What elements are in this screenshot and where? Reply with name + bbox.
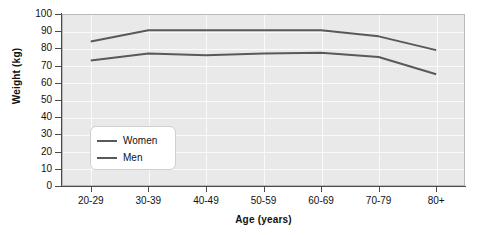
legend-item-men: Men (97, 149, 169, 166)
y-tick-label: 20 (8, 147, 52, 157)
legend-item-women: Women (97, 132, 169, 149)
x-tick-label: 40-49 (176, 195, 236, 206)
x-tick-label: 80+ (406, 195, 466, 206)
y-tick-label: 30 (8, 129, 52, 139)
x-tick-label: 60-69 (291, 195, 351, 206)
legend-swatch-women (97, 140, 117, 142)
y-tick-label: 90 (8, 26, 52, 36)
series-line-men (91, 53, 436, 74)
y-tick-label: 10 (8, 164, 52, 174)
legend-swatch-men (97, 157, 117, 159)
x-tick-label: 30-39 (118, 195, 178, 206)
x-tick-label: 20-29 (61, 195, 121, 206)
legend-label-women: Women (123, 136, 157, 146)
legend: Women Men (90, 126, 176, 170)
x-tick-label: 70-79 (349, 195, 409, 206)
line-chart-figure: Weight (kg) 0102030405060708090100 20-29… (0, 0, 481, 235)
y-tick-label: 60 (8, 78, 52, 88)
y-axis-tick-labels: 0102030405060708090100 (0, 0, 52, 200)
y-tick-label: 70 (8, 61, 52, 71)
x-tick (321, 187, 322, 192)
x-tick-label: 50-59 (234, 195, 294, 206)
x-tick (91, 187, 92, 192)
legend-label-men: Men (123, 153, 142, 163)
x-tick (379, 187, 380, 192)
x-tick (206, 187, 207, 192)
y-tick-label: 0 (8, 181, 52, 191)
x-tick (264, 187, 265, 192)
x-tick (148, 187, 149, 192)
x-tick (436, 187, 437, 192)
series-line-women (91, 30, 436, 50)
x-axis-title: Age (years) (62, 214, 465, 225)
y-tick-label: 40 (8, 112, 52, 122)
y-tick-label: 50 (8, 95, 52, 105)
y-tick-label: 80 (8, 43, 52, 53)
y-tick-label: 100 (8, 9, 52, 19)
